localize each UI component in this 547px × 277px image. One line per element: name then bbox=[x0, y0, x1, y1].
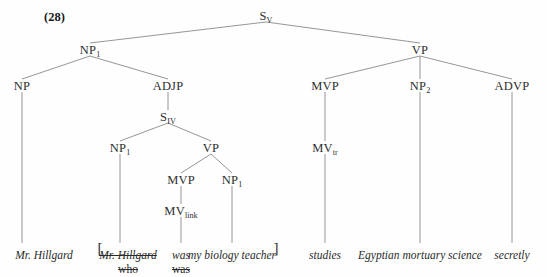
terminal-my-biology-teacher: my biology teacher bbox=[188, 249, 276, 261]
node-label-text: ADVP bbox=[495, 79, 530, 93]
node-label-subscript: V bbox=[267, 16, 273, 25]
node-label-text: MV bbox=[312, 141, 333, 155]
tree-edges-canvas bbox=[0, 0, 547, 277]
tree-node-mvp-r: MVP bbox=[311, 79, 339, 94]
node-label-text: VP bbox=[203, 141, 219, 155]
node-label-text: NP bbox=[80, 43, 96, 57]
node-label-text: NP bbox=[222, 173, 238, 187]
tree-node-np-1-obj: NP1 bbox=[222, 173, 242, 188]
terminal-mr-hillgard-trace: Mr. Hillgard bbox=[99, 249, 157, 261]
terminal-secretly: secretly bbox=[494, 249, 529, 261]
node-label-subscript: link bbox=[185, 211, 198, 220]
node-label-subscript: 1 bbox=[126, 148, 130, 157]
bracket-close: ] bbox=[274, 240, 279, 257]
edge-S_IV-to-NP_1_mid bbox=[120, 123, 168, 141]
node-label-text: NP bbox=[410, 79, 426, 93]
tree-node-np-1-top: NP1 bbox=[80, 43, 100, 58]
tree-node-mvp-mid: MVP bbox=[167, 173, 195, 188]
node-label-text: VP bbox=[412, 43, 428, 57]
edge-VP_right-to-ADVP bbox=[420, 56, 512, 79]
tree-node-np-1-mid: NP1 bbox=[110, 141, 130, 156]
terminal-mr-hillgard-subject: Mr. Hillgard bbox=[15, 249, 73, 261]
tree-node-np-left: NP bbox=[14, 79, 30, 94]
node-label-subscript: 1 bbox=[96, 50, 100, 59]
tree-node-advp: ADVP bbox=[495, 79, 530, 94]
edge-VP_mid-to-MVP_mid bbox=[181, 154, 211, 173]
tree-node-s-iv: SIV bbox=[160, 110, 176, 125]
edge-NP_1_top-to-ADJP bbox=[90, 56, 168, 79]
node-label-text: MVP bbox=[311, 79, 339, 93]
tree-node-s-v: SV bbox=[259, 9, 272, 24]
terminal-egyptian-mortuary: Egyptian mortuary science bbox=[358, 249, 482, 261]
edge-S_V-to-VP_right bbox=[266, 22, 420, 43]
terminal-studies: studies bbox=[309, 249, 341, 261]
example-number: (28) bbox=[44, 10, 65, 25]
node-label-subscript: IV bbox=[167, 117, 176, 126]
tree-node-vp-right: VP bbox=[412, 43, 428, 58]
syntax-tree-figure: (28) SVNP1VPNPADJPSIVNP1VPMVPNP1MVlinkMV… bbox=[0, 0, 547, 277]
tree-node-np-2: NP2 bbox=[410, 79, 430, 94]
node-label-subscript: tr bbox=[333, 148, 338, 157]
node-label-subscript: 2 bbox=[426, 86, 430, 95]
bracket-open: [ bbox=[98, 240, 103, 257]
tree-node-mv-tr: MVtr bbox=[312, 141, 338, 156]
tree-node-mv-link: MVlink bbox=[164, 204, 197, 219]
node-label-text: MV bbox=[164, 204, 185, 218]
edge-VP_right-to-MVP_r bbox=[325, 56, 420, 79]
edge-S_V-to-NP_1_top bbox=[90, 22, 266, 43]
edge-NP_1_top-to-NP_left bbox=[22, 56, 90, 79]
terminal-who: who bbox=[118, 263, 138, 275]
tree-node-vp-mid: VP bbox=[203, 141, 219, 156]
node-label-text: ADJP bbox=[153, 79, 184, 93]
tree-node-adjp: ADJP bbox=[153, 79, 184, 94]
node-label-text: NP bbox=[14, 79, 30, 93]
edge-VP_mid-to-NP_1_obj bbox=[211, 154, 232, 173]
node-label-text: MVP bbox=[167, 173, 195, 187]
node-label-text: NP bbox=[110, 141, 126, 155]
terminal-was-struck: was bbox=[172, 263, 190, 275]
node-label-subscript: 1 bbox=[238, 180, 242, 189]
